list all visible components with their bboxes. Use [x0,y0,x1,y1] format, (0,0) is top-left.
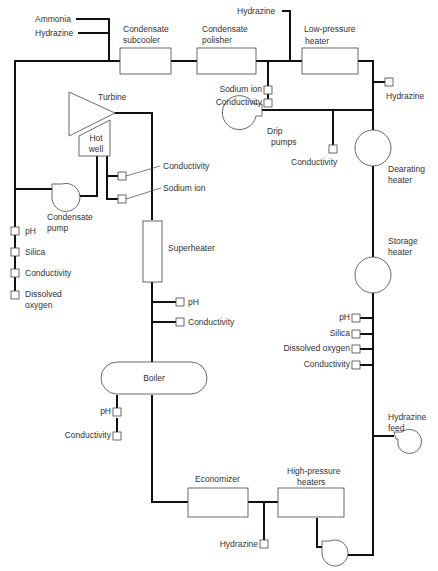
hotwell-sodium-label: Sodium ion [163,183,206,194]
storage-heater-label-2: heater [388,247,412,258]
sample-box-sh-ph [176,298,184,306]
hot-well-label-1: Hot [82,133,110,144]
deaerating-heater-circle [355,130,391,166]
sample-box-drip-cond [329,145,337,153]
condensate-polisher-box [197,48,256,74]
sample-box-st-cond [352,361,360,369]
hp-heaters-label-2: heaters [297,477,325,488]
ammonia-feed-line [76,19,109,61]
deaerating-heater-label-2: heater [388,175,412,186]
storage-heater-label-1: Storage [388,236,418,247]
condensate-pump-icon [52,183,80,211]
sample-box-hotwell-sodium [118,195,126,203]
sample-box-st-do [352,345,360,353]
condensate-pump-label-2: pump [47,223,68,234]
sample-box-cp-silica [11,248,19,256]
condensate-pump-label-1: Condensate [47,212,93,223]
hot-well-label-2: well [82,144,110,155]
pointer-arrow [126,166,160,176]
lp-heater-label-2: heater [305,36,329,47]
polisher-cond-label: Conductivity [190,97,262,108]
sh-ph-label: pH [188,297,199,308]
sample-box-polisher-cond [264,99,272,107]
cp-cond-label: Conductivity [25,268,71,279]
boiler-label: Boiler [101,373,207,384]
hydrazine-label-econ: Hydrazine [200,539,258,550]
lp-heater-label-1: Low-pressure [304,24,356,35]
cp-do-label-1: Dissolved [25,289,62,300]
hp-heaters-label-1: High-pressure [287,466,340,477]
drip-pumps-label-1: Drip [267,126,283,137]
high-pressure-heaters-box [278,488,344,517]
equipment [52,48,422,566]
st-cond-label: Conductivity [270,359,350,370]
pointer-arrow [126,188,161,199]
hydrazine-box-econ [260,540,268,548]
hydrazine-label-lp: Hydrazine [386,91,424,102]
lp-heater-outlet-line [358,61,373,134]
drip-cond-label: Conductivity [291,157,337,168]
superheater-label: Superheater [168,243,215,254]
cp-do-label-2: oxygen [25,300,52,311]
hydrazine-label-left: Hydrazine [35,28,73,39]
storage-heater-circle [355,257,391,293]
subcooler-label-1: Condensate [123,24,169,35]
hydrazine-feed-line-mid [282,11,290,61]
hydrazine-box-lp [385,78,393,86]
subcooler-label-2: subcooler [123,35,160,46]
economizer-label: Economizer [195,474,240,485]
superheater-box [143,221,162,282]
bd-ph-label: pH [60,406,111,417]
low-pressure-heater-box [302,48,358,74]
bd-cond-label: Conductivity [40,430,111,441]
economizer-boiler-line [152,395,188,502]
economizer-box [188,488,248,517]
drip-pumps-label-2: pumps [271,137,297,148]
polisher-sodium-label: Sodium ion [200,84,262,95]
st-silica-label: Silica [280,328,350,339]
ammonia-label: Ammonia [35,14,71,25]
hotwell-sample-line [107,156,118,199]
cp-ph-label: pH [25,226,36,237]
sample-box-sh-cond [176,318,184,326]
condensate-subcooler-box [120,48,171,74]
polisher-label-1: Condensate [202,24,248,35]
sample-box-cp-ph [11,227,19,235]
sample-box-bd-ph [113,408,121,416]
cp-silica-label: Silica [25,247,45,258]
st-ph-label: pH [280,312,350,323]
hydrazine-feed-label-1: Hydrazine [388,412,426,423]
sample-box-bd-cond [113,432,121,440]
polisher-label-2: polisher [202,35,232,46]
superheater-turbine-line [115,113,152,220]
sample-box-cp-cond [11,269,19,277]
deaerating-heater-label-1: Dearating [388,164,425,175]
sample-box-cp-do [11,291,19,299]
sample-box-st-ph [352,314,360,322]
hydrazine-label-top: Hydrazine [237,6,275,17]
sh-cond-label: Conductivity [188,317,234,328]
hp-heater-pump-line [317,518,322,547]
feed-pump-icon [322,540,348,566]
hotwell-cond-label: Conductivity [163,161,209,172]
turbine-label: Turbine [98,92,127,103]
sample-box-hotwell-cond [118,172,126,180]
sample-box-polisher-sodium [264,86,272,94]
hydrazine-feed-label-2: feed [388,423,405,434]
sample-box-st-silica [352,330,360,338]
st-do-label: Dissolved oxygen [270,343,350,354]
